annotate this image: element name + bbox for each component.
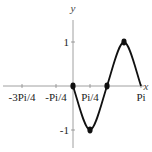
data-point bbox=[87, 127, 92, 134]
data-point bbox=[121, 39, 126, 46]
x-axis-label: x bbox=[143, 80, 149, 92]
data-point bbox=[104, 83, 109, 90]
y-tick-label: -1 bbox=[60, 124, 69, 136]
data-point bbox=[70, 83, 75, 90]
y-tick-label: 1 bbox=[64, 36, 70, 48]
x-tick-label: Pi bbox=[136, 91, 145, 103]
x-tick-label: -Pi/4 bbox=[45, 91, 67, 103]
x-tick-label: Pi/4 bbox=[81, 91, 99, 103]
y-axis-label: y bbox=[70, 2, 76, 14]
x-tick-label: -3Pi/4 bbox=[9, 91, 36, 103]
plot: -3Pi/4 -Pi/4 Pi/4 Pi 1 -1 x y bbox=[0, 0, 152, 152]
